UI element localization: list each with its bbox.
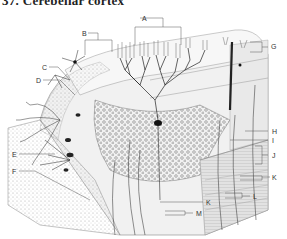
label-a: A	[142, 15, 147, 22]
label-h: H	[272, 128, 277, 135]
label-g: G	[271, 43, 276, 50]
label-e: E	[12, 151, 17, 158]
label-l: L	[253, 193, 257, 200]
label-m: M	[196, 210, 202, 217]
label-i: I	[272, 137, 274, 144]
label-d: D	[36, 77, 41, 84]
cerebellar-cortex-illustration	[0, 0, 287, 239]
label-k-bottom: K	[206, 199, 211, 206]
purkinje-soma	[154, 120, 162, 126]
label-f: F	[12, 168, 16, 175]
label-c: C	[42, 64, 47, 71]
label-j: J	[272, 152, 276, 159]
label-b: B	[82, 30, 87, 37]
label-k-right: K	[272, 174, 277, 181]
